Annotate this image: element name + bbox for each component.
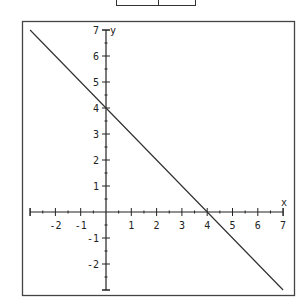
y-tick-label: 6 [93,51,99,62]
line-chart: -2-112345677654321-1-2 x y [0,0,307,303]
y-tick-label: -1 [87,233,99,244]
tick-labels: -2-112345677654321-1-2 [49,25,286,270]
y-tick-label: 4 [93,103,99,114]
y-axis-label: y [110,25,116,36]
x-tick-label: 5 [229,220,235,231]
x-tick-label: -2 [49,220,61,231]
x-tick-label: -1 [75,220,87,231]
y-tick-label: 2 [93,155,99,166]
x-tick-label: 4 [204,220,210,231]
x-tick-label: 7 [280,220,286,231]
x-tick-label: 1 [128,220,134,231]
x-tick-label: 6 [255,220,261,231]
y-tick-label: -2 [87,259,99,270]
y-tick-label: 7 [93,25,99,36]
y-tick-label: 3 [93,129,99,140]
x-tick-label: 3 [179,220,185,231]
plot-border [23,22,295,296]
y-tick-label: 1 [93,181,99,192]
x-axis-label: x [281,197,287,208]
series-line [30,30,283,290]
x-tick-label: 2 [154,220,160,231]
y-tick-label: 5 [93,77,99,88]
data-series [30,30,283,290]
